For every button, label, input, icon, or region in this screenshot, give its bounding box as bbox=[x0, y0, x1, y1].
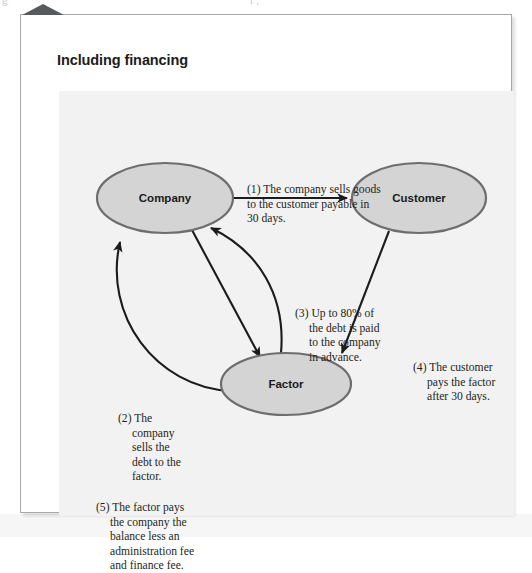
triangle-up-icon bbox=[22, 4, 64, 15]
annotation-3-line1: Up to 80% of bbox=[311, 307, 374, 320]
scan-artifact-left: g bbox=[2, 0, 8, 6]
annotation-5-line3: balance less an bbox=[96, 530, 194, 545]
annotation-5-marker: (5) bbox=[96, 501, 112, 514]
annotation-4: (4) The customerpays the factorafter 30 … bbox=[413, 361, 495, 405]
annotation-3-marker: (3) bbox=[295, 307, 311, 320]
annotation-1-marker: (1) bbox=[247, 183, 263, 196]
annotation-1-line1: The company sells goods bbox=[263, 183, 381, 196]
annotation-3-line4: in advance. bbox=[295, 351, 380, 366]
annotation-3: (3) Up to 80% ofthe debt is paidto the c… bbox=[295, 307, 380, 365]
annotation-4-line2: pays the factor bbox=[413, 376, 495, 391]
annotation-2-line3: sells the bbox=[118, 441, 181, 456]
annotation-1: (1) The company sells goodsto the custom… bbox=[247, 183, 381, 227]
annotation-5: (5) The factor paysthe company thebalanc… bbox=[96, 501, 194, 573]
figure-title: Including financing bbox=[57, 52, 188, 68]
annotation-3-line2: the debt is paid bbox=[295, 322, 380, 337]
annotation-5-line2: the company the bbox=[96, 516, 194, 531]
scan-header-artifact: g l , bbox=[0, 0, 532, 6]
customer-label: Customer bbox=[392, 192, 446, 204]
node-company[interactable]: Company bbox=[97, 163, 233, 233]
annotation-2-line5: factor. bbox=[118, 470, 181, 485]
annotation-4-marker: (4) bbox=[413, 361, 429, 374]
annotation-2-marker: (2) bbox=[118, 412, 134, 425]
company-label: Company bbox=[139, 192, 192, 204]
scan-artifact-right: l , bbox=[250, 0, 259, 6]
annotation-4-line1: The customer bbox=[429, 361, 492, 374]
figure-frame: Including financing Company bbox=[20, 14, 512, 513]
edge-factor-to-company-advance bbox=[211, 228, 282, 353]
scan-texture-band bbox=[0, 514, 532, 537]
annotation-2-line1: The bbox=[134, 412, 152, 425]
annotation-5-line4: administration fee bbox=[96, 545, 194, 560]
edge-factor-to-company-balance bbox=[117, 242, 231, 391]
annotation-2-line4: debt to the bbox=[118, 456, 181, 471]
annotation-1-line3: 30 days. bbox=[247, 212, 381, 227]
annotation-1-line2: to the customer payable in bbox=[247, 198, 381, 213]
factor-label: Factor bbox=[268, 378, 304, 390]
annotation-2: (2) Thecompanysells thedebt to thefactor… bbox=[118, 412, 181, 485]
annotation-4-line3: after 30 days. bbox=[413, 390, 495, 405]
annotation-3-line3: to the company bbox=[295, 336, 380, 351]
annotation-5-line5: and finance fee. bbox=[96, 559, 194, 573]
diagram-panel: Company Customer Factor (1) The company … bbox=[59, 91, 514, 516]
annotation-2-line2: company bbox=[118, 427, 181, 442]
annotation-5-line1: The factor pays bbox=[112, 501, 184, 514]
edge-company-to-factor bbox=[192, 230, 260, 357]
